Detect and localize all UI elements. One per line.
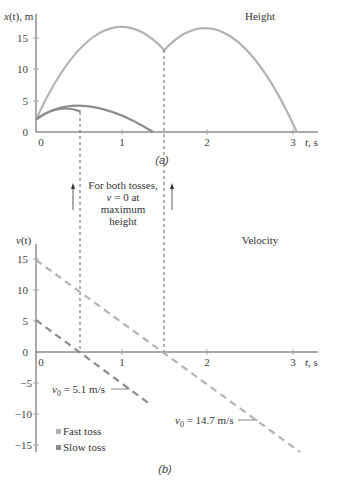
y-tick-10: 10	[17, 63, 29, 75]
legend-fast: Fast toss	[63, 425, 101, 437]
y-tick-neg10: −10	[15, 408, 33, 420]
y-tick-neg15: −15	[15, 439, 33, 451]
svg-text:v = 0 at: v = 0 at	[107, 191, 140, 203]
velocity-chart: 15 10 5 0 −5 −10 −15 0 1 2 3 t, s v(t) V…	[15, 234, 318, 475]
y-tick-5: 5	[23, 315, 29, 327]
legend-swatch-slow	[56, 445, 61, 450]
caption-b: (b)	[158, 463, 172, 475]
figure: 0 5 10 15 0 1 2 3 t, s x(t), m Height (a…	[0, 0, 338, 485]
legend: Fast toss Slow toss	[56, 425, 106, 453]
svg-text:For both tosses,: For both tosses,	[88, 179, 158, 191]
arrow-up-icon	[170, 183, 174, 189]
x-tick-2: 2	[204, 136, 210, 148]
y-tick-0: 0	[23, 126, 29, 138]
y-tick-15: 15	[17, 32, 29, 44]
x-tick-3: 3	[290, 356, 296, 368]
y-tick-0: 0	[23, 346, 29, 358]
x-axis-label: t, s	[305, 356, 318, 368]
x-tick-1: 1	[119, 136, 125, 148]
caption-a: (a)	[155, 154, 169, 166]
annot-slow: v0 = 5.1 m/s	[52, 383, 105, 398]
x-tick-2: 2	[204, 356, 210, 368]
annot-fast: v0 = 14.7 m/s	[175, 414, 234, 429]
height-chart: 0 5 10 15 0 1 2 3 t, s x(t), m Height (a…	[3, 10, 318, 166]
x-axis-label: t, s	[305, 136, 318, 148]
y-tick-15: 15	[17, 253, 29, 265]
x-tick-0: 0	[38, 356, 44, 368]
arrow-up-icon	[71, 183, 75, 189]
y-tick-5: 5	[23, 95, 29, 107]
annotation-note: For both tosses, v = 0 at maximum height	[71, 179, 174, 227]
fast-toss-velocity-line	[36, 260, 300, 452]
fast-toss-height-curve	[36, 27, 297, 132]
legend-swatch-fast	[56, 429, 61, 434]
y-tick-neg5: −5	[20, 377, 32, 389]
y-tick-10: 10	[17, 284, 29, 296]
y-ticks	[33, 38, 293, 135]
y-axis-label: v(t)	[16, 234, 32, 247]
chart-title-velocity: Velocity	[242, 234, 279, 246]
svg-text:maximum: maximum	[101, 203, 146, 215]
slow-toss-height-curve-2	[36, 106, 153, 132]
svg-text:height: height	[109, 215, 137, 227]
y-axis-label: x(t), m	[3, 10, 34, 23]
chart-title-height: Height	[245, 10, 275, 22]
x-tick-3: 3	[290, 136, 296, 148]
x-tick-1: 1	[119, 356, 125, 368]
x-tick-0: 0	[38, 136, 44, 148]
legend-slow: Slow toss	[63, 441, 106, 453]
